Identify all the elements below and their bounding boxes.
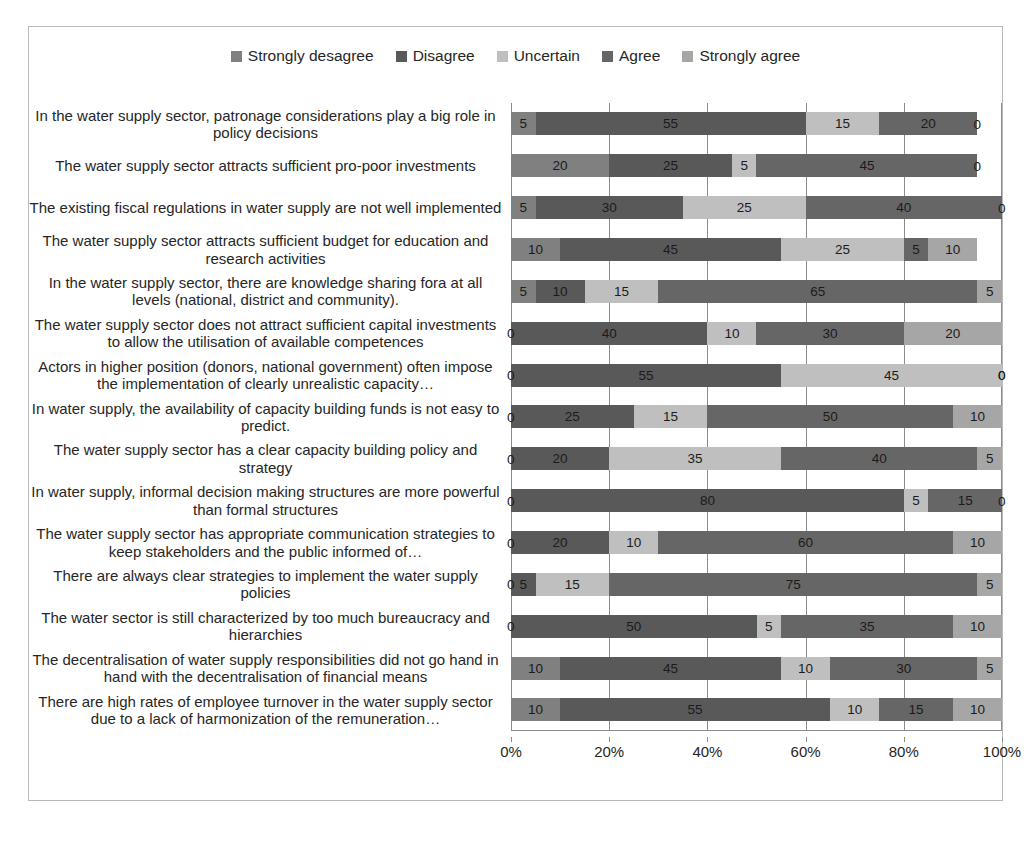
bar-segment[interactable]: 5 (511, 112, 536, 135)
bar-segment[interactable]: 5 (977, 280, 1002, 303)
bar-segment[interactable]: 55 (560, 698, 830, 721)
stacked-bar[interactable]: 025155010 (511, 405, 1002, 428)
bar-segment[interactable]: 20 (904, 322, 1002, 345)
bar-segment[interactable]: 10 (781, 657, 830, 680)
bar-segment[interactable]: 50 (511, 615, 757, 638)
bar-segment[interactable]: 15 (634, 405, 708, 428)
bar-segment[interactable]: 10 (953, 615, 1002, 638)
bar-segment[interactable]: 30 (536, 196, 683, 219)
legend-swatch-icon (231, 51, 242, 62)
bar-segment[interactable]: 15 (928, 489, 1002, 512)
category-label: The water sector is still characterized … (29, 609, 511, 644)
bar-segment[interactable]: 40 (511, 322, 707, 345)
bar-segment[interactable]: 10 (609, 531, 658, 554)
bar-segment[interactable]: 30 (756, 322, 903, 345)
stacked-bar[interactable]: 020106010 (511, 531, 1002, 554)
stacked-bar[interactable]: 02035405 (511, 447, 1002, 470)
x-tick-label: 20% (594, 743, 624, 760)
bar-segment[interactable]: 55 (536, 112, 806, 135)
bar-segment[interactable]: 5 (977, 447, 1002, 470)
bar-segment[interactable]: 40 (781, 447, 977, 470)
bar-segment[interactable]: 35 (609, 447, 781, 470)
bar-segment[interactable]: 45 (560, 238, 781, 261)
bar-segment[interactable]: 25 (609, 154, 732, 177)
bar-value-label: 40 (602, 326, 617, 341)
bar-segment[interactable]: 35 (781, 615, 953, 638)
bar-segment[interactable]: 15 (879, 698, 953, 721)
stacked-bar[interactable]: 104525510 (511, 238, 1002, 261)
stacked-bar[interactable]: 53025400 (511, 196, 1002, 219)
bar-segment[interactable]: 25 (781, 238, 904, 261)
category-label: The water supply sector has a clear capa… (29, 441, 511, 476)
bar-segment[interactable]: 60 (658, 531, 953, 554)
stacked-bar[interactable]: 0515755 (511, 573, 1002, 596)
bar-segment[interactable]: 5 (977, 573, 1002, 596)
bar-segment[interactable]: 5 (977, 657, 1002, 680)
bar-value-label: 10 (724, 326, 739, 341)
bar-segment[interactable]: 30 (830, 657, 977, 680)
bar-segment[interactable]: 10 (511, 238, 560, 261)
bar-segment[interactable]: 5 (904, 238, 929, 261)
bar-segment[interactable]: 15 (806, 112, 880, 135)
stacked-bar[interactable]: 0805150 (511, 489, 1002, 512)
bar-segment[interactable]: 10 (953, 405, 1002, 428)
bar-segment[interactable]: 45 (560, 657, 781, 680)
bar-segment[interactable]: 5 (511, 280, 536, 303)
category-label: The decentralisation of water supply res… (29, 651, 511, 686)
bar-value-label: 25 (663, 158, 678, 173)
bar-segment[interactable]: 75 (609, 573, 977, 596)
legend-item[interactable]: Disagree (396, 47, 475, 65)
stacked-bar[interactable]: 55515200 (511, 112, 1002, 135)
chart-row: There are high rates of employee turnove… (29, 689, 1002, 731)
legend-item[interactable]: Strongly agree (682, 47, 800, 65)
bar-segment[interactable]: 25 (683, 196, 806, 219)
bar-segment[interactable]: 10 (707, 322, 756, 345)
bar-segment[interactable]: 50 (707, 405, 953, 428)
bar-value-label: 0 (973, 116, 981, 131)
stacked-bar[interactable]: 05053510 (511, 615, 1002, 638)
bar-value-label: 55 (688, 702, 703, 717)
bar-segment[interactable]: 65 (658, 280, 977, 303)
bar-segment[interactable]: 20 (511, 154, 609, 177)
stacked-bar[interactable]: 51015655 (511, 280, 1002, 303)
bar-segment[interactable]: 10 (953, 531, 1002, 554)
bar-segment[interactable]: 15 (536, 573, 610, 596)
bar-segment[interactable]: 5 (511, 196, 536, 219)
legend-label: Disagree (413, 47, 475, 65)
legend-swatch-icon (602, 51, 613, 62)
bar-segment[interactable]: 10 (511, 657, 560, 680)
category-label: In the water supply sector, there are kn… (29, 274, 511, 309)
bar-segment[interactable]: 5 (904, 489, 929, 512)
bar-segment[interactable]: 55 (511, 364, 781, 387)
stacked-bar[interactable]: 0554500 (511, 364, 1002, 387)
legend-item[interactable]: Uncertain (497, 47, 580, 65)
bar-segment[interactable]: 15 (585, 280, 659, 303)
bar-value-label: 10 (970, 619, 985, 634)
bar-value-label: 20 (553, 158, 568, 173)
bar-segment[interactable]: 20 (511, 531, 609, 554)
bar-segment[interactable]: 45 (756, 154, 977, 177)
bar-segment[interactable]: 20 (511, 447, 609, 470)
tick-mark (511, 737, 512, 742)
legend-item[interactable]: Strongly desagree (231, 47, 374, 65)
bar-segment[interactable]: 10 (928, 238, 977, 261)
stacked-bar[interactable]: 104510305 (511, 657, 1002, 680)
bar-segment[interactable]: 80 (511, 489, 904, 512)
bar-segment[interactable]: 25 (511, 405, 634, 428)
legend-item[interactable]: Agree (602, 47, 660, 65)
bar-segment[interactable]: 40 (806, 196, 1002, 219)
stacked-bar[interactable]: 040103020 (511, 322, 1002, 345)
chart-row: The existing fiscal regulations in water… (29, 187, 1002, 229)
bar-container: 20255450 (511, 145, 1002, 187)
stacked-bar[interactable]: 20255450 (511, 154, 1002, 177)
bar-segment[interactable]: 5 (732, 154, 757, 177)
bar-segment[interactable]: 5 (757, 615, 782, 638)
stacked-bar[interactable]: 1055101510 (511, 698, 1002, 721)
bar-segment[interactable]: 5 (511, 573, 536, 596)
bar-segment[interactable]: 20 (879, 112, 977, 135)
bar-segment[interactable]: 10 (536, 280, 585, 303)
bar-segment[interactable]: 10 (830, 698, 879, 721)
bar-segment[interactable]: 10 (953, 698, 1002, 721)
bar-segment[interactable]: 10 (511, 698, 560, 721)
bar-segment[interactable]: 45 (781, 364, 1002, 387)
